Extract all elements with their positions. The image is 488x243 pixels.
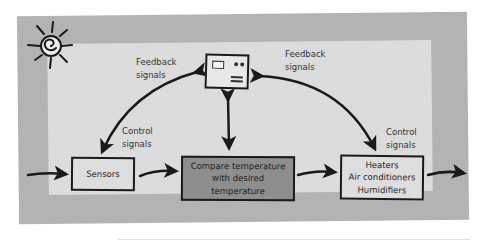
center-bidirectional-arrow (228, 98, 229, 146)
thermostat-knob (240, 62, 244, 66)
thermostat-line (231, 76, 243, 78)
box-text: with desired (191, 172, 286, 185)
box-text: Air conditioners (349, 171, 416, 184)
compare-to-effectors-arrow (298, 171, 333, 175)
control-signals-label-right: Control signals (386, 126, 417, 152)
label-line: signals (136, 69, 176, 82)
thermostat-icon (205, 53, 250, 89)
box-text: Sensors (86, 168, 120, 181)
label-line: Feedback (136, 56, 176, 69)
box-text: Heaters (349, 158, 416, 171)
label-line: signals (122, 138, 153, 151)
label-line: Control (122, 125, 153, 138)
input-arrow (28, 173, 64, 175)
compare-temperature-box: Compare temperature with desired tempera… (181, 156, 295, 202)
thermostat-knob (234, 62, 238, 66)
box-text: Compare temperature (191, 160, 286, 173)
thermostat-line (231, 80, 243, 82)
sensors-box: Sensors (71, 157, 135, 192)
box-text: Humidifiers (348, 183, 415, 196)
feedback-signals-label-left: Feedback signals (136, 56, 176, 82)
label-line: signals (386, 139, 417, 152)
feedback-signals-label-right: Feedback signals (285, 48, 325, 74)
output-arrow (428, 172, 462, 175)
label-line: signals (285, 61, 325, 74)
sensors-to-compare-arrow (140, 171, 174, 176)
thermostat-display (212, 61, 224, 69)
right-feedback-control-arrow (260, 76, 374, 147)
control-signals-label-left: Control signals (122, 125, 153, 151)
label-line: Feedback (285, 48, 325, 61)
box-text: temperature (191, 185, 286, 198)
label-line: Control (386, 126, 417, 139)
connection-arrows (0, 0, 488, 243)
effectors-box: Heaters Air conditioners Humidifiers (340, 155, 424, 201)
